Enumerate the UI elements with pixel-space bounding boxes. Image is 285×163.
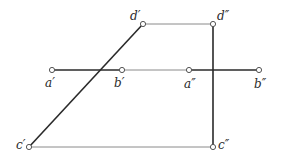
point-c-prime [26, 144, 31, 149]
point-c-double-prime [210, 144, 215, 149]
label-a-prime: a′ [45, 76, 55, 90]
label-a-double-prime: a″ [184, 77, 196, 91]
label-c-double-prime: c″ [218, 138, 230, 152]
point-d-double-prime [210, 21, 215, 26]
point-a-double-prime [186, 67, 191, 72]
label-c-prime: c′ [16, 138, 26, 152]
point-b-double-prime [256, 67, 261, 72]
point-b-prime [119, 67, 124, 72]
point-a-prime [49, 67, 54, 72]
label-b-prime: b′ [114, 76, 125, 90]
point-d-prime [140, 21, 145, 26]
projection-diagram: d′ d″ a′ b′ a″ b″ c′ c″ [0, 0, 285, 163]
label-d-prime: d′ [130, 9, 141, 23]
label-d-double-prime: d″ [217, 9, 230, 23]
label-b-double-prime: b″ [254, 77, 267, 91]
